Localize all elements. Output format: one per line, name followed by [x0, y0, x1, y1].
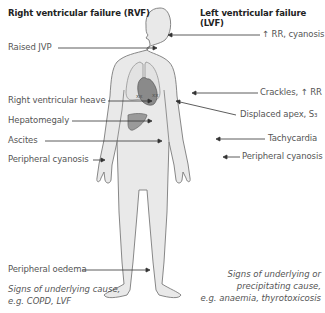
note-right: Signs of underlying or precipitating cau…	[201, 268, 321, 304]
note-right-line1: Signs of underlying or	[201, 268, 321, 280]
silhouette	[97, 8, 190, 298]
label-rv-heave: Right ventricular heave	[8, 95, 106, 105]
note-left-line1: Signs of underlying cause,	[8, 283, 120, 295]
rvf-header: Right ventricular failure (RVF)	[8, 8, 150, 18]
label-ascites: Ascites	[8, 135, 38, 145]
note-right-line2: precipitating cause,	[201, 280, 321, 292]
label-displaced-apex: Displaced apex, S₃	[240, 109, 317, 119]
label-crackles: Crackles, ↑ RR	[260, 87, 322, 97]
note-left: Signs of underlying cause, e.g. COPD, LV…	[8, 283, 120, 307]
note-left-line2: e.g. COPD, LVF	[8, 295, 120, 307]
label-hepatomegaly: Hepatomegaly	[8, 115, 69, 125]
lvf-header: Left ventricular failure (LVF)	[200, 8, 325, 28]
label-peripheral-cyanosis-left: Peripheral cyanosis	[8, 154, 89, 164]
crackles-marker-left: xx	[152, 92, 159, 98]
label-peripheral-oedema: Peripheral oedema	[8, 264, 87, 274]
note-right-line3: e.g. anaemia, thyrotoxicosis	[201, 292, 321, 304]
label-rr-cyanosis: ↑ RR, cyanosis	[262, 29, 324, 39]
label-peripheral-cyanosis-right: Peripheral cyanosis	[242, 151, 323, 161]
crackles-marker-right: xx	[136, 93, 143, 99]
label-raised-jvp: Raised JVP	[8, 42, 52, 52]
label-tachycardia: Tachycardia	[268, 133, 317, 143]
